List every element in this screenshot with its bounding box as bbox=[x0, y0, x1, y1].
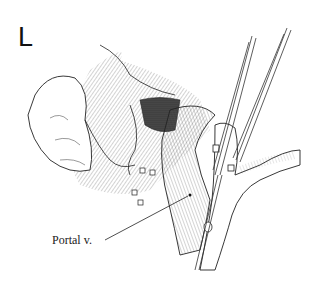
portal-vein-label: Portal v. bbox=[52, 233, 92, 248]
surgical-drawing bbox=[0, 0, 310, 283]
panel-letter: L bbox=[18, 24, 33, 51]
branching-vessel bbox=[200, 123, 300, 270]
portal-vein-marker-dot bbox=[189, 194, 192, 197]
anatomical-illustration: L Portal v. bbox=[0, 0, 310, 283]
surgical-clip bbox=[228, 165, 234, 171]
